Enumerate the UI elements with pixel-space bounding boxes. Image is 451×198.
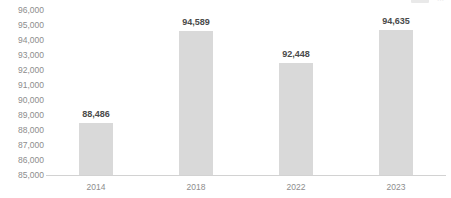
y-axis-tick-label: 85,000 [0,171,44,180]
remnant-bar-icon [411,0,429,3]
y-axis-tick-label: 90,000 [0,96,44,105]
ellipsis-icon: ⋯ [437,0,445,5]
x-axis-tick-label: 2022 [246,180,346,194]
bar-value-label: 94,635 [382,17,410,26]
bar-group[interactable]: 92,448 [246,10,346,175]
y-axis: 96,00095,00094,00093,00092,00091,00090,0… [0,10,44,175]
bar-group[interactable]: 94,589 [146,10,246,175]
x-axis-tick-label: 2018 [146,180,246,194]
bar-group[interactable]: 88,486 [46,10,146,175]
y-axis-tick-label: 93,000 [0,51,44,60]
bar-value-label: 92,448 [282,50,310,59]
y-axis-tick-label: 89,000 [0,111,44,120]
clipped-header-remnant: ⋯ [411,0,445,6]
bar-group[interactable]: 94,635 [346,10,446,175]
y-axis-tick-label: 95,000 [0,21,44,30]
x-axis-line [46,175,446,176]
bar-value-label: 94,589 [182,18,210,27]
y-axis-tick-label: 86,000 [0,156,44,165]
y-axis-tick-label: 91,000 [0,81,44,90]
plot-area: 88,48694,58992,44894,635 [46,10,445,175]
x-axis-tick-label: 2023 [346,180,446,194]
bar[interactable] [79,123,113,175]
x-axis-tick-label: 2014 [46,180,146,194]
y-axis-tick-label: 96,000 [0,6,44,15]
bar[interactable] [379,30,413,175]
y-axis-tick-label: 88,000 [0,126,44,135]
x-axis: 2014201820222023 [46,180,446,196]
y-axis-tick-label: 92,000 [0,66,44,75]
bar-chart: ⋯ 96,00095,00094,00093,00092,00091,00090… [0,0,451,198]
bar[interactable] [279,63,313,175]
y-axis-tick-label: 94,000 [0,36,44,45]
y-axis-tick-label: 87,000 [0,141,44,150]
bar-value-label: 88,486 [82,110,110,119]
bar[interactable] [179,31,213,175]
